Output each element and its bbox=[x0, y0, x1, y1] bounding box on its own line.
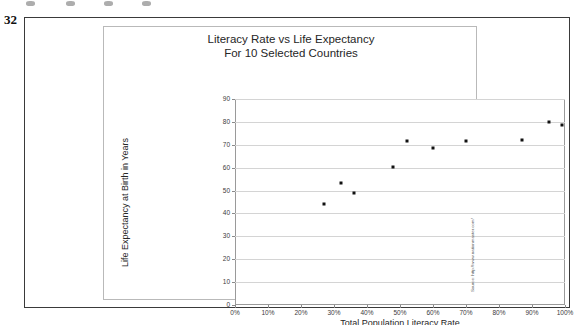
plot-area: 0102030405060708090 0%10%20%30%40%50%60%… bbox=[235, 99, 565, 305]
x-tick-label: 30% bbox=[327, 310, 340, 317]
y-tick-label: 20 bbox=[223, 256, 230, 263]
data-point bbox=[392, 165, 395, 168]
x-axis-title: Total Population Literacy Rate bbox=[235, 319, 565, 325]
x-tick-label: 70% bbox=[459, 310, 472, 317]
data-point bbox=[323, 203, 326, 206]
x-tick-label: 60% bbox=[426, 310, 439, 317]
gridline bbox=[235, 191, 565, 192]
y-tick-mark bbox=[232, 213, 235, 214]
y-tick-mark bbox=[232, 168, 235, 169]
data-point bbox=[465, 139, 468, 142]
x-tick-mark bbox=[466, 305, 467, 308]
y-tick-mark bbox=[232, 191, 235, 192]
x-tick-mark bbox=[334, 305, 335, 308]
gridline bbox=[235, 282, 565, 283]
x-tick-label: 90% bbox=[525, 310, 538, 317]
gridline bbox=[235, 213, 565, 214]
x-tick-mark bbox=[235, 305, 236, 308]
y-tick-label: 60 bbox=[223, 164, 230, 171]
gridline bbox=[235, 259, 565, 260]
x-tick-mark bbox=[268, 305, 269, 308]
data-point bbox=[521, 138, 524, 141]
gridline bbox=[235, 99, 565, 100]
y-tick-label: 30 bbox=[223, 233, 230, 240]
gridline bbox=[235, 122, 565, 123]
y-axis-title: Life Expectancy at Birth in Years bbox=[120, 99, 132, 305]
x-tick-label: 50% bbox=[393, 310, 406, 317]
data-point bbox=[547, 120, 550, 123]
y-tick-label: 80 bbox=[223, 119, 230, 126]
chart-container: Literacy Rate vs Life Expectancy For 10 … bbox=[103, 26, 477, 300]
y-tick-label: 10 bbox=[223, 279, 230, 286]
chart-title: Literacy Rate vs Life Expectancy For 10 … bbox=[104, 32, 478, 60]
y-tick-label: 40 bbox=[223, 210, 230, 217]
data-point bbox=[352, 191, 355, 194]
y-tick-label: 70 bbox=[223, 142, 230, 149]
plot-frame bbox=[235, 99, 565, 305]
page-number: 32 bbox=[4, 13, 17, 26]
x-tick-mark bbox=[433, 305, 434, 308]
source-note: Source: http://www.nationmaster.com/ bbox=[468, 212, 478, 298]
scan-artifacts bbox=[0, 0, 581, 10]
x-tick-label: 10% bbox=[261, 310, 274, 317]
data-point bbox=[405, 140, 408, 143]
y-tick-mark bbox=[232, 259, 235, 260]
y-axis-title-label: Life Expectancy at Birth in Years bbox=[122, 137, 131, 266]
chart-title-line-2: For 10 Selected Countries bbox=[104, 46, 478, 60]
y-tick-mark bbox=[232, 145, 235, 146]
gridline bbox=[235, 236, 565, 237]
x-tick-label: 0% bbox=[230, 310, 239, 317]
data-point bbox=[560, 123, 563, 126]
data-point bbox=[432, 147, 435, 150]
data-point bbox=[339, 181, 342, 184]
y-tick-mark bbox=[232, 122, 235, 123]
x-tick-mark bbox=[499, 305, 500, 308]
y-tick-label: 50 bbox=[223, 187, 230, 194]
x-tick-mark bbox=[301, 305, 302, 308]
x-tick-mark bbox=[367, 305, 368, 308]
x-tick-label: 20% bbox=[294, 310, 307, 317]
x-tick-label: 40% bbox=[360, 310, 373, 317]
x-tick-label: 100% bbox=[557, 310, 574, 317]
gridline bbox=[235, 145, 565, 146]
chart-title-line-1: Literacy Rate vs Life Expectancy bbox=[104, 32, 478, 46]
x-tick-label: 80% bbox=[492, 310, 505, 317]
gridline bbox=[235, 168, 565, 169]
y-tick-mark bbox=[232, 236, 235, 237]
x-tick-mark bbox=[565, 305, 566, 308]
y-tick-label: 90 bbox=[223, 96, 230, 103]
x-tick-mark bbox=[532, 305, 533, 308]
y-tick-mark bbox=[232, 99, 235, 100]
y-tick-label: 0 bbox=[226, 302, 230, 309]
x-tick-mark bbox=[400, 305, 401, 308]
source-note-label: Source: http://www.nationmaster.com/ bbox=[471, 218, 475, 292]
y-tick-mark bbox=[232, 282, 235, 283]
